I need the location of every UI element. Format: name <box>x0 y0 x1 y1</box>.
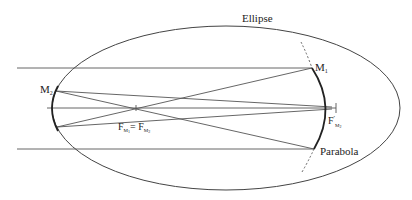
secondary-mirror-m2 <box>52 86 58 131</box>
m1-label: M1 <box>315 61 328 74</box>
primary-mirror-m1 <box>312 68 326 149</box>
ray-m1-to-m2-lower <box>57 68 312 127</box>
ray-m2-lower-to-final-focus <box>57 109 332 127</box>
final-focus-label: F′M2 <box>328 114 342 129</box>
ray-parabola-lower-to-m2 <box>56 91 314 149</box>
ray-m2-upper-to-final-focus <box>56 91 332 107</box>
m2-label: M2 <box>40 83 53 96</box>
parabola-extension-bottom <box>302 149 314 172</box>
parabola-label: Parabola <box>320 145 359 157</box>
ellipse-label: Ellipse <box>242 12 273 24</box>
optical-diagram: Ellipse M1 M2 FM1= FM2 F′M2 Parabola <box>0 0 412 200</box>
shared-focus-label: FM1= FM2 <box>118 121 150 134</box>
parabola-extension-top <box>301 42 312 68</box>
